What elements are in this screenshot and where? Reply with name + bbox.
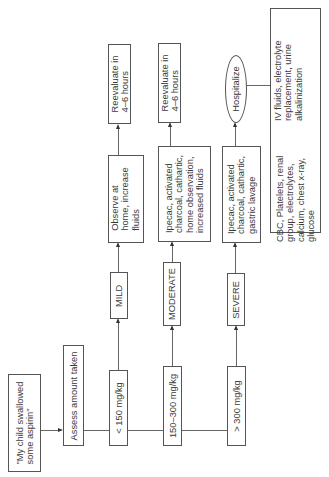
hospitalize-label: Hospitalize xyxy=(231,66,241,111)
hospitalize-node: Hospitalize xyxy=(225,55,247,123)
connector-severe-2 xyxy=(235,247,236,273)
treatment-label: Ipecac, activated charcoal, cathartic, g… xyxy=(226,155,257,233)
dose-node-mild: < 150 mg/kg xyxy=(109,370,128,446)
treatment-label: Ipecac, activated charcoal, cathartic, h… xyxy=(164,155,206,233)
dose-label: 150–300 mg/kg xyxy=(167,374,177,438)
dose-label: > 300 mg/kg xyxy=(231,380,241,431)
connector-trunk xyxy=(83,430,228,431)
outcome-node-moderate: Reevaluate in 4–6 hours xyxy=(158,43,181,123)
connector-hospitalize-care xyxy=(246,85,271,86)
severity-node-moderate: MODERATE xyxy=(163,262,181,326)
assess-node: Assess amount taken xyxy=(63,345,84,446)
severity-node-mild: MILD xyxy=(110,272,128,319)
connector-severe-3 xyxy=(235,127,236,146)
connector-moderate-2 xyxy=(172,246,173,262)
severity-label: MILD xyxy=(114,284,124,306)
dose-node-severe: > 300 mg/kg xyxy=(227,366,246,446)
connector-severe-1 xyxy=(236,330,237,366)
hospital-care-node: CBC, Platelets, renal group, electrolyte… xyxy=(270,8,321,233)
outcome-label: Reevaluate in 4–6 hours xyxy=(159,55,180,112)
assess-label: Assess amount taken xyxy=(68,351,78,440)
connector-moderate-1 xyxy=(172,330,173,366)
hospital-therapy-text: IV fluids, electrolyte replacement, urin… xyxy=(273,25,304,121)
severity-label: SEVERE xyxy=(231,281,241,319)
arrow-icon xyxy=(116,124,120,129)
treatment-node-moderate: Ipecac, activated charcoal, cathartic, h… xyxy=(158,146,211,242)
connector-moderate-3 xyxy=(170,127,171,146)
treatment-label: Observe at home, increase fluids xyxy=(110,167,141,231)
dose-node-moderate: 150–300 mg/kg xyxy=(163,366,182,446)
hospital-labs-text: CBC, Platelets, renal group, electrolyte… xyxy=(275,146,317,242)
connector-mild-3 xyxy=(118,129,119,155)
connector-mild-1 xyxy=(118,323,119,370)
treatment-node-severe: Ipecac, activated charcoal, cathartic, g… xyxy=(222,146,261,243)
outcome-node-mild: Reevaluate in 4–6 hours xyxy=(108,44,131,124)
start-node: "My child swallowed some aspirin" xyxy=(8,374,41,472)
connector-start-assess xyxy=(40,430,58,431)
outcome-label: Reevaluate in 4–6 hours xyxy=(109,56,130,113)
dose-label: < 150 mg/kg xyxy=(113,382,123,433)
connector-mild-2 xyxy=(118,247,119,272)
treatment-node-mild: Observe at home, increase fluids xyxy=(108,155,144,243)
severity-label: MODERATE xyxy=(167,268,177,320)
severity-node-severe: SEVERE xyxy=(227,273,245,326)
start-label: "My child swallowed some aspirin" xyxy=(14,382,35,465)
